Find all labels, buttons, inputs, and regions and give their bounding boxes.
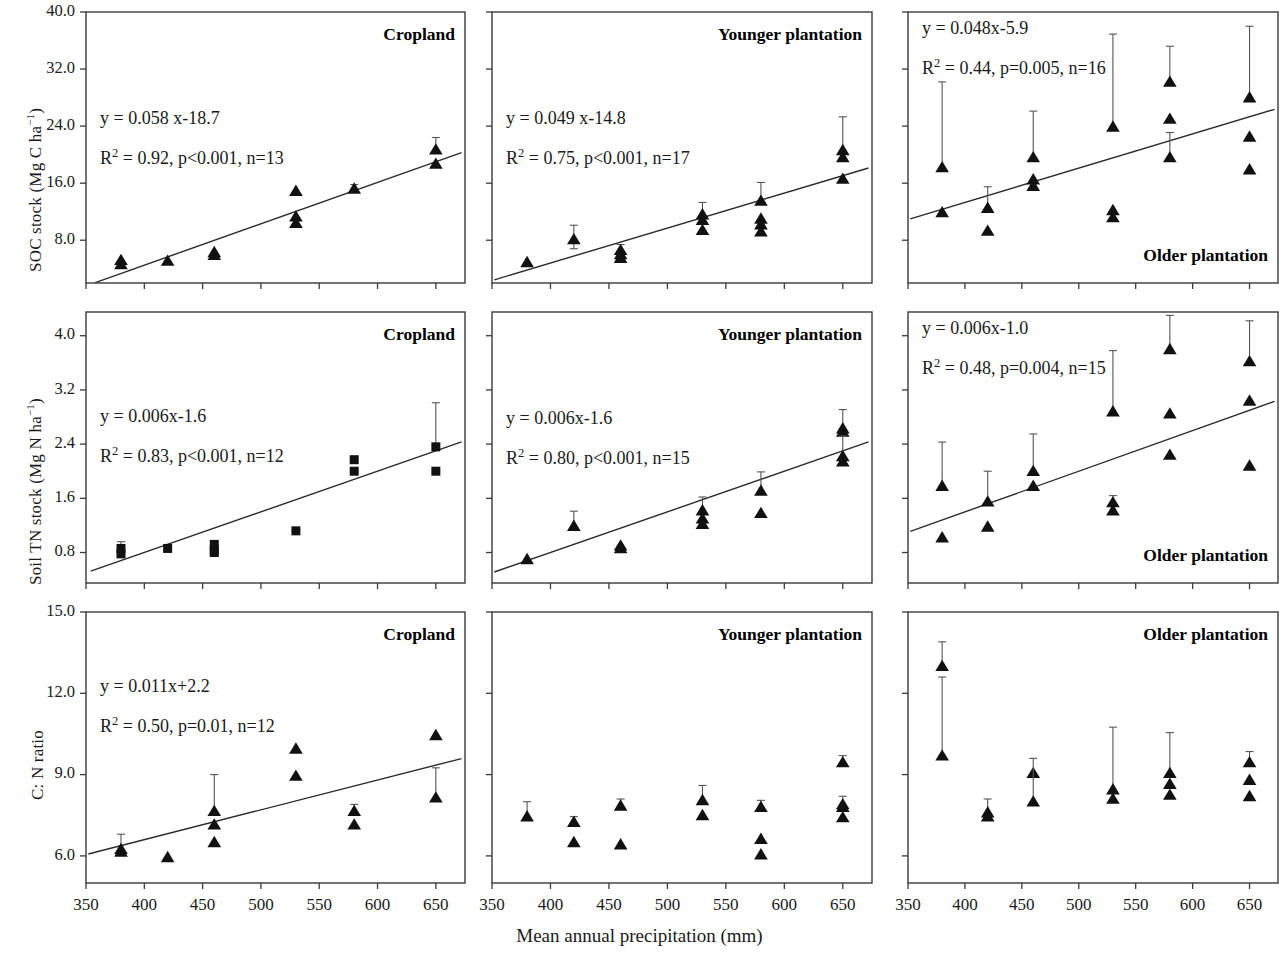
data-point-marker <box>1243 355 1257 366</box>
plot-soc-cropland: 8.016.024.032.040.0Croplandy = 0.058 x-1… <box>0 0 470 300</box>
regression-line <box>910 109 1274 219</box>
data-point-marker <box>696 809 710 820</box>
regression-line <box>88 759 461 854</box>
data-point-marker <box>1163 448 1177 459</box>
data-point-marker <box>754 848 768 859</box>
regression-stats: R2 = 0.48, p=0.004, n=15 <box>922 356 1106 378</box>
data-point-marker <box>567 816 581 827</box>
plot-tn-younger: Younger plantationy = 0.006x-1.6R2 = 0.8… <box>470 300 880 600</box>
data-point-marker <box>289 742 303 753</box>
x-tick-label: 550 <box>306 895 332 914</box>
data-point-marker <box>1243 756 1257 767</box>
data-point-marker <box>696 794 710 805</box>
data-point-marker <box>207 836 221 847</box>
data-point-marker <box>1243 459 1257 470</box>
data-point-marker <box>754 833 768 844</box>
data-point-marker <box>1243 790 1257 801</box>
data-point-marker <box>836 811 850 822</box>
y-tick-label: 12.0 <box>46 682 75 701</box>
data-point-marker <box>935 480 949 491</box>
data-point-marker <box>1026 151 1040 162</box>
x-tick-label: 450 <box>1009 895 1035 914</box>
data-point-marker <box>1106 405 1120 416</box>
y-tick-label: 6.0 <box>54 845 75 864</box>
regression-equation: y = 0.006x-1.6 <box>100 406 206 426</box>
regression-line <box>494 168 868 280</box>
plot-tn-cropland: 0.81.62.43.24.0Croplandy = 0.006x-1.6R2 … <box>0 300 470 600</box>
data-point-marker <box>754 484 768 495</box>
panel-soc-younger: Younger plantationy = 0.049 x-14.8R2 = 0… <box>470 0 880 300</box>
data-point-marker <box>836 756 850 767</box>
data-point-marker <box>347 818 361 829</box>
x-axis-title: Mean annual precipitation (mm) <box>0 925 1279 947</box>
data-point-marker <box>207 805 221 816</box>
plot-soc-younger: Younger plantationy = 0.049 x-14.8R2 = 0… <box>470 0 880 300</box>
y-tick-label: 9.0 <box>54 763 75 782</box>
x-tick-label: 650 <box>1237 895 1263 914</box>
data-point-marker <box>1163 788 1177 799</box>
data-point-marker <box>1026 465 1040 476</box>
y-tick-label: 4.0 <box>54 324 75 343</box>
data-point-marker <box>429 729 443 740</box>
plot-frame <box>86 612 465 883</box>
data-point-marker <box>116 549 125 558</box>
panel-tn-cropland: 0.81.62.43.24.0Croplandy = 0.006x-1.6R2 … <box>0 300 470 600</box>
x-tick-label: 400 <box>538 895 564 914</box>
data-point-marker <box>1243 163 1257 174</box>
panel-cn-cropland: 6.09.012.015.0350400450500550600650Cropl… <box>0 600 470 930</box>
data-point-marker <box>1163 778 1177 789</box>
regression-stats: R2 = 0.75, p<0.001, n=17 <box>506 146 690 168</box>
regression-equation: y = 0.058 x-18.7 <box>100 108 220 128</box>
data-point-marker <box>163 544 172 553</box>
data-point-marker <box>350 455 359 464</box>
panel-title: Younger plantation <box>718 624 862 644</box>
regression-stats: R2 = 0.83, p<0.001, n=12 <box>100 444 284 466</box>
data-point-marker <box>567 836 581 847</box>
x-tick-label: 500 <box>655 895 681 914</box>
x-tick-label: 350 <box>479 895 505 914</box>
plot-soc-older: Older plantationy = 0.048x-5.9R2 = 0.44,… <box>880 0 1279 300</box>
plot-tn-older: Older plantationy = 0.006x-1.0R2 = 0.48,… <box>880 300 1279 600</box>
data-point-marker <box>567 233 581 244</box>
x-tick-label: 550 <box>713 895 739 914</box>
data-point-marker <box>981 202 995 213</box>
y-tick-label: 32.0 <box>46 58 75 77</box>
x-tick-label: 500 <box>248 895 274 914</box>
x-tick-label: 500 <box>1066 895 1092 914</box>
data-point-marker <box>520 810 534 821</box>
data-point-marker <box>347 805 361 816</box>
y-tick-label: 2.4 <box>54 433 75 452</box>
data-point-marker <box>614 799 628 810</box>
data-point-marker <box>935 749 949 760</box>
data-point-marker <box>935 531 949 542</box>
data-point-marker <box>1163 407 1177 418</box>
x-tick-label: 450 <box>190 895 216 914</box>
data-point-marker <box>696 224 710 235</box>
x-tick-label: 350 <box>895 895 921 914</box>
plot-frame <box>908 12 1278 283</box>
x-tick-label: 600 <box>365 895 391 914</box>
data-point-marker <box>567 520 581 531</box>
plot-frame <box>908 612 1278 883</box>
x-tick-label: 600 <box>772 895 798 914</box>
panel-cn-older: 350400450500550600650Older plantation <box>880 600 1279 930</box>
data-point-marker <box>1243 130 1257 141</box>
data-point-marker <box>210 548 219 557</box>
data-point-marker <box>431 442 440 451</box>
data-point-marker <box>291 526 300 535</box>
x-tick-label: 650 <box>423 895 449 914</box>
y-tick-label: 24.0 <box>46 115 75 134</box>
data-point-marker <box>1026 795 1040 806</box>
data-point-marker <box>754 507 768 518</box>
data-point-marker <box>1243 91 1257 102</box>
data-point-marker <box>1163 151 1177 162</box>
data-point-marker <box>754 801 768 812</box>
regression-equation: y = 0.006x-1.0 <box>922 318 1028 338</box>
panel-title: Cropland <box>383 324 455 344</box>
panel-title: Younger plantation <box>718 324 862 344</box>
y-tick-label: 8.0 <box>54 229 75 248</box>
data-point-marker <box>289 185 303 196</box>
data-point-marker <box>1106 120 1120 131</box>
regression-line <box>910 401 1274 531</box>
plot-cn-older: 350400450500550600650Older plantation <box>880 600 1279 930</box>
